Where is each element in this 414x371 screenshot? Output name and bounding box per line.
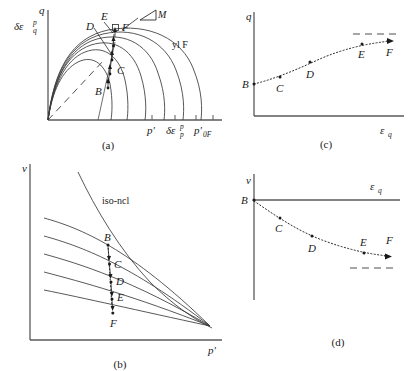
panel-d-dot-e bbox=[363, 252, 366, 255]
strain-arrow-head-c bbox=[108, 64, 112, 69]
panel-d-y-label: v bbox=[246, 174, 251, 186]
panel-a-point-label-c: C bbox=[117, 64, 125, 76]
swelling-line-4 bbox=[44, 272, 210, 326]
panel-d-x-label-eps: ε bbox=[370, 180, 375, 192]
panel-b-point-label-f: F bbox=[109, 317, 117, 329]
slope-triangle-icon bbox=[140, 10, 156, 20]
panel-b-y-label: v bbox=[22, 162, 27, 174]
leader-line-e bbox=[104, 22, 113, 33]
panel-c-dot-f bbox=[387, 40, 390, 43]
point-dot-e bbox=[112, 45, 115, 48]
panel-a-point-label-d: D bbox=[85, 20, 94, 32]
panel-a-y-label-q: q bbox=[39, 4, 45, 16]
panel-a-x-label-sub-p: p bbox=[179, 130, 184, 139]
panel-b-svg: v p' iso-ncl B C D E F (b) bbox=[0, 148, 240, 371]
panel-d-dot-d bbox=[311, 235, 314, 238]
panel-d-svg: v ε q B C D E F (d) bbox=[222, 160, 414, 360]
panel-c-point-label-f: F bbox=[385, 46, 393, 58]
panel-a-y-label-sup-p: p bbox=[32, 18, 37, 27]
figure-root: q δε q p B C D E F M yl F p' δε p p p' 0… bbox=[0, 0, 414, 371]
yield-surface-3 bbox=[48, 43, 146, 120]
panel-b-caption: (b) bbox=[114, 358, 127, 371]
panel-c-y-label: q bbox=[246, 10, 252, 22]
panel-a-point-label-f: F bbox=[121, 21, 129, 33]
panel-c-x-label-eps: ε bbox=[380, 124, 385, 136]
panel-a-label-m: M bbox=[157, 9, 167, 20]
panel-a-y-label-sub-q: q bbox=[33, 26, 37, 35]
panel-b-volume-vs-p: v p' iso-ncl B C D E F (b) bbox=[0, 148, 240, 371]
panel-d-volume-vs-eq: v ε q B C D E F (d) bbox=[222, 160, 414, 360]
panel-a-x-label-sub-0f: 0F bbox=[203, 130, 212, 139]
point-dot-c bbox=[109, 73, 112, 76]
panel-a-svg: q δε q p B C D E F M yl F p' δε p p p' 0… bbox=[0, 0, 225, 150]
panel-c-dot-d bbox=[309, 61, 312, 64]
panel-c-point-label-e: E bbox=[357, 48, 365, 60]
yield-surface-2 bbox=[48, 50, 128, 120]
point-dot-b bbox=[107, 87, 110, 90]
panel-b-dot-e bbox=[111, 298, 114, 301]
panel-d-point-label-d: D bbox=[307, 242, 316, 254]
panel-c-svg: q ε q B C D E F (c) bbox=[222, 0, 414, 150]
panel-b-dot-c bbox=[108, 263, 111, 266]
panel-b-dot-b bbox=[107, 244, 110, 247]
panel-b-dot-f bbox=[111, 312, 114, 315]
panel-b-point-label-e: E bbox=[116, 291, 124, 303]
panel-d-dot-c bbox=[279, 217, 282, 220]
panel-d-dot-b bbox=[252, 198, 255, 201]
panel-c-curve-q-eq bbox=[254, 41, 390, 84]
yield-surface-1 bbox=[48, 59, 112, 120]
panel-c-caption: (c) bbox=[320, 138, 333, 151]
panel-a-point-label-b: B bbox=[95, 85, 102, 97]
iso-ncl-curve bbox=[78, 172, 212, 328]
panel-d-point-label-f: F bbox=[385, 234, 393, 246]
panel-c-dot-e bbox=[361, 43, 364, 46]
panel-c-point-label-d: D bbox=[305, 68, 314, 80]
strain-arrow-head-f bbox=[113, 27, 117, 32]
yield-surface-4 bbox=[48, 37, 165, 120]
panel-b-dot-d bbox=[110, 281, 113, 284]
panel-a-x-label-deps: δε bbox=[166, 124, 176, 136]
panel-b-x-label: p' bbox=[207, 344, 217, 356]
panel-a-point-label-e: E bbox=[100, 10, 108, 22]
panel-a-x-label-p0f: p' bbox=[193, 124, 203, 136]
panel-a-y-label-deps: δε bbox=[14, 20, 24, 32]
panel-b-point-label-d: D bbox=[115, 275, 124, 287]
panel-c-q-vs-eq: q ε q B C D E F (c) bbox=[222, 0, 414, 150]
panel-a-stress-space: q δε q p B C D E F M yl F p' δε p p p' 0… bbox=[0, 0, 225, 150]
panel-a-label-ylf: yl F bbox=[172, 39, 188, 50]
panel-d-caption: (d) bbox=[332, 336, 345, 349]
swelling-line-2 bbox=[44, 236, 210, 326]
panel-a-x-label-pprime: p' bbox=[146, 124, 156, 136]
swelling-line-5 bbox=[44, 290, 210, 326]
panel-d-point-label-b: B bbox=[241, 194, 248, 206]
swelling-line-3 bbox=[44, 254, 210, 326]
panel-c-dot-b bbox=[253, 83, 256, 86]
swelling-line-1 bbox=[44, 218, 210, 326]
panel-b-arrow-head-ef bbox=[111, 306, 115, 311]
panel-b-arrow-head-de bbox=[110, 292, 114, 297]
panel-d-point-label-e: E bbox=[359, 236, 367, 248]
panel-d-point-label-c: C bbox=[275, 222, 283, 234]
panel-b-label-isoncl: iso-ncl bbox=[102, 195, 129, 206]
point-dot-d bbox=[111, 59, 114, 62]
panel-d-dot-f bbox=[385, 255, 388, 258]
panel-a-x-label-sup-p: p bbox=[179, 122, 184, 131]
panel-c-point-label-b: B bbox=[242, 78, 249, 90]
panel-b-point-label-b: B bbox=[104, 231, 111, 243]
panel-d-x-label-sub-q: q bbox=[378, 186, 382, 195]
panel-c-dot-c bbox=[279, 76, 282, 79]
panel-c-point-label-c: C bbox=[276, 82, 284, 94]
panel-b-point-label-c: C bbox=[114, 258, 122, 270]
panel-c-x-label-sub-q: q bbox=[388, 130, 392, 139]
